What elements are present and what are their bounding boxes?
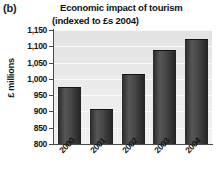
chart-title: Economic impact of tourism (indexed to £…	[52, 1, 217, 27]
chart-title-line-2: (indexed to £s 2004)	[52, 14, 217, 27]
y-tick-mark	[49, 30, 54, 31]
y-tick-label: 1,050	[1, 58, 47, 68]
y-tick-label: 900	[1, 106, 47, 116]
gridline	[54, 30, 212, 31]
figure-panel-b: (b) Economic impact of tourism (indexed …	[0, 0, 217, 177]
y-tick-mark	[49, 63, 54, 64]
y-tick-label: 950	[1, 90, 47, 100]
y-tick-label: 800	[1, 139, 47, 149]
y-tick-mark	[49, 79, 54, 80]
y-tick-mark	[49, 95, 54, 96]
y-tick-label: 1,150	[1, 25, 47, 35]
y-tick-mark	[49, 46, 54, 47]
y-tick-mark	[49, 128, 54, 129]
y-tick-label: 1,000	[1, 74, 47, 84]
y-tick-mark	[49, 144, 54, 145]
y-tick-mark	[49, 111, 54, 112]
y-tick-label: 850	[1, 123, 47, 133]
y-tick-label: 1,100	[1, 41, 47, 51]
panel-letter: (b)	[3, 2, 16, 14]
chart-title-line-1: Economic impact of tourism	[52, 1, 217, 14]
